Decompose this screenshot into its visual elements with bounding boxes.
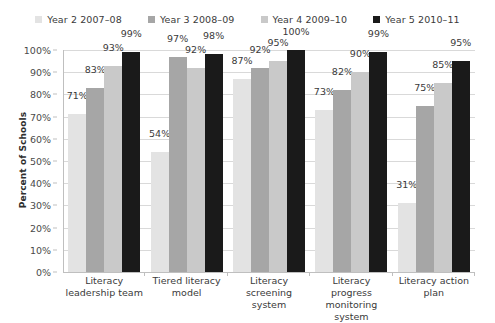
bar-value-label: 99% bbox=[368, 28, 389, 40]
bar-value-label: 31% bbox=[396, 179, 417, 191]
bar[interactable] bbox=[251, 68, 269, 272]
bar[interactable] bbox=[104, 66, 122, 272]
legend-swatch-icon bbox=[148, 16, 155, 23]
bar[interactable] bbox=[151, 152, 169, 272]
y-axis-tick-mark bbox=[53, 50, 57, 51]
x-axis-category-label: Literacy screeningsystem bbox=[228, 275, 310, 323]
bar-group: 87%92%95%100% bbox=[228, 50, 310, 272]
y-axis-tick-label: 40% bbox=[30, 178, 51, 189]
bar[interactable] bbox=[351, 72, 369, 272]
bar-value-label: 100% bbox=[282, 26, 309, 38]
bar-value-label: 90% bbox=[350, 48, 371, 60]
bar-slot: 95% bbox=[452, 50, 470, 272]
bar-slot: 98% bbox=[205, 50, 223, 272]
legend-label: Year 3 2008–09 bbox=[160, 14, 235, 25]
bar-slot: 31% bbox=[398, 50, 416, 272]
y-axis-tick-label: 20% bbox=[30, 222, 51, 233]
bar-value-label: 95% bbox=[267, 37, 288, 49]
bar[interactable] bbox=[233, 79, 251, 272]
bar-group: 71%83%93%99% bbox=[63, 50, 145, 272]
y-axis-tick-mark bbox=[53, 72, 57, 73]
bar-value-label: 54% bbox=[149, 128, 170, 140]
y-axis-tick-label: 100% bbox=[24, 45, 51, 56]
legend-entry[interactable]: Year 3 2008–09 bbox=[148, 14, 235, 25]
y-axis-tick-mark bbox=[53, 94, 57, 95]
y-axis-tick-mark bbox=[53, 205, 57, 206]
bar[interactable] bbox=[287, 50, 305, 272]
bar[interactable] bbox=[68, 114, 86, 272]
bar[interactable] bbox=[452, 61, 470, 272]
legend-label: Year 4 2009–10 bbox=[273, 14, 348, 25]
y-axis-tick-mark bbox=[53, 227, 57, 228]
bar[interactable] bbox=[86, 88, 104, 272]
bar-slot: 100% bbox=[287, 50, 305, 272]
bar[interactable] bbox=[122, 52, 140, 272]
x-axis-category-label-line: leadership team bbox=[64, 287, 144, 299]
y-axis-tick-mark bbox=[53, 249, 57, 250]
bar[interactable] bbox=[269, 61, 287, 272]
bar-value-label: 98% bbox=[203, 30, 224, 42]
bar-slot: 75% bbox=[416, 50, 434, 272]
bar[interactable] bbox=[333, 90, 351, 272]
y-axis-tick-label: 70% bbox=[30, 111, 51, 122]
bars-layer: 71%83%93%99%54%97%92%98%87%92%95%100%73%… bbox=[63, 50, 475, 272]
y-axis-tick-label: 30% bbox=[30, 200, 51, 211]
x-axis-category-label: Literacy actionplan bbox=[393, 275, 475, 323]
y-axis-tick-mark bbox=[53, 161, 57, 162]
x-axis-category-label-line: Tiered literacy bbox=[146, 275, 226, 287]
bar[interactable] bbox=[398, 203, 416, 272]
bar[interactable] bbox=[169, 57, 187, 272]
bar[interactable] bbox=[434, 83, 452, 272]
legend-swatch-icon bbox=[261, 16, 268, 23]
legend-swatch-icon bbox=[35, 16, 42, 23]
x-axis-category-label-line: system bbox=[229, 299, 309, 311]
x-axis-category-label-line: Literacy action bbox=[394, 275, 474, 287]
x-axis-category-label-line: Literacy screening bbox=[229, 275, 309, 299]
bar-value-label: 85% bbox=[432, 59, 453, 71]
bar-value-label: 75% bbox=[414, 82, 435, 94]
bar-value-label: 99% bbox=[121, 28, 142, 40]
bar-value-label: 95% bbox=[450, 37, 471, 49]
x-axis-category-label-line: Literacy progress bbox=[311, 275, 391, 299]
x-axis-category-label: Tiered literacymodel bbox=[145, 275, 227, 323]
bar-slot: 99% bbox=[369, 50, 387, 272]
plot-area: 71%83%93%99%54%97%92%98%87%92%95%100%73%… bbox=[63, 50, 475, 272]
bar-value-label: 71% bbox=[67, 90, 88, 102]
bar[interactable] bbox=[416, 106, 434, 273]
x-axis-category-label: Literacy progressmonitoring system bbox=[310, 275, 392, 323]
bar-slot: 73% bbox=[315, 50, 333, 272]
y-axis-tick-label: 90% bbox=[30, 67, 51, 78]
x-axis-category-label-line: plan bbox=[394, 287, 474, 299]
legend-entry[interactable]: Year 4 2009–10 bbox=[261, 14, 348, 25]
bar-value-label: 93% bbox=[103, 42, 124, 54]
bar-slot: 92% bbox=[251, 50, 269, 272]
x-axis-category-label-line: monitoring system bbox=[311, 299, 391, 323]
legend-entry[interactable]: Year 5 2010–11 bbox=[373, 14, 460, 25]
bar-value-label: 73% bbox=[314, 86, 335, 98]
bar-group: 54%97%92%98% bbox=[145, 50, 227, 272]
legend-entry[interactable]: Year 2 2007–08 bbox=[35, 14, 122, 25]
bar-group: 31%75%85%95% bbox=[393, 50, 475, 272]
y-axis-tick-mark bbox=[53, 116, 57, 117]
bar-slot: 99% bbox=[122, 50, 140, 272]
x-axis-category-label: Literacyleadership team bbox=[63, 275, 145, 323]
y-axis-tick-label: 10% bbox=[30, 244, 51, 255]
bar-slot: 71% bbox=[68, 50, 86, 272]
x-axis-category-label-line: model bbox=[146, 287, 226, 299]
y-axis-tick-mark bbox=[53, 272, 57, 273]
bar[interactable] bbox=[205, 54, 223, 272]
bar-slot: 87% bbox=[233, 50, 251, 272]
bar-slot: 97% bbox=[169, 50, 187, 272]
bar[interactable] bbox=[187, 68, 205, 272]
x-axis-category-labels: Literacyleadership teamTiered literacymo… bbox=[63, 275, 475, 323]
y-axis-tick-label: 0% bbox=[36, 267, 51, 278]
legend-swatch-icon bbox=[373, 16, 380, 23]
y-axis-tick-label: 60% bbox=[30, 133, 51, 144]
bar[interactable] bbox=[315, 110, 333, 272]
bar-slot: 85% bbox=[434, 50, 452, 272]
y-axis-tick-mark bbox=[53, 183, 57, 184]
legend-label: Year 2 2007–08 bbox=[47, 14, 122, 25]
bar-slot: 95% bbox=[269, 50, 287, 272]
bar[interactable] bbox=[369, 52, 387, 272]
